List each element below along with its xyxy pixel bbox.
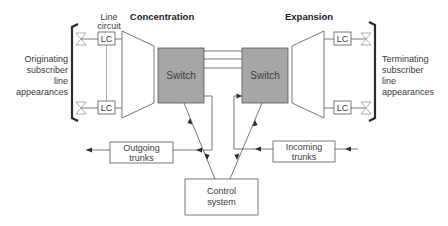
svg-text:Terminating: Terminating: [382, 54, 429, 64]
left-subscriber-top: LC: [76, 32, 124, 45]
svg-text:circuit: circuit: [97, 21, 121, 31]
line-circuit-label: Line circuit: [97, 12, 121, 31]
svg-text:subscriber: subscriber: [382, 65, 424, 75]
arrow-left-icon: [255, 147, 261, 152]
originating-label: Originating subscriber line appearances: [16, 54, 69, 97]
svg-text:subscriber: subscriber: [26, 65, 68, 75]
svg-text:trunks: trunks: [292, 152, 317, 162]
svg-text:appearances: appearances: [382, 87, 435, 97]
terminating-label: Terminating subscriber line appearances: [382, 54, 435, 97]
svg-text:Control: Control: [207, 186, 236, 196]
svg-text:system: system: [207, 197, 236, 207]
svg-text:line: line: [54, 76, 68, 86]
switch-interconnect: [204, 51, 242, 68]
left-bracket: [72, 24, 78, 121]
arrow-left-icon: [196, 148, 202, 153]
right-switch-label: Switch: [250, 70, 279, 81]
right-bracket: [369, 22, 375, 121]
arrow-right-icon: [237, 94, 243, 99]
concentration-stage: [122, 31, 154, 118]
concentration-label: Concentration: [130, 11, 195, 22]
arrow-left-icon: [345, 147, 351, 152]
control-left-link: [184, 103, 215, 179]
svg-text:Outgoing: Outgoing: [123, 143, 160, 153]
svg-text:LC: LC: [101, 103, 113, 113]
svg-text:Originating: Originating: [24, 54, 68, 64]
svg-text:LC: LC: [337, 103, 349, 113]
svg-text:trunks: trunks: [129, 153, 154, 163]
svg-text:Incoming: Incoming: [286, 142, 323, 152]
arrow-down-icon: [205, 154, 210, 161]
right-subscriber-top: LC: [324, 32, 371, 45]
right-subscriber-bottom: LC: [324, 101, 371, 114]
left-switch-label: Switch: [166, 70, 195, 81]
svg-text:LC: LC: [337, 34, 349, 44]
svg-text:appearances: appearances: [16, 87, 69, 97]
control-right-link: [230, 103, 262, 179]
expansion-label: Expansion: [285, 11, 333, 22]
switching-system-diagram: Originating subscriber line appearances …: [0, 0, 448, 226]
svg-text:line: line: [382, 76, 396, 86]
left-subscriber-bottom: LC: [76, 101, 124, 114]
arrow-left-icon: [86, 148, 92, 153]
svg-text:LC: LC: [101, 34, 113, 44]
expansion-stage: [292, 31, 324, 118]
